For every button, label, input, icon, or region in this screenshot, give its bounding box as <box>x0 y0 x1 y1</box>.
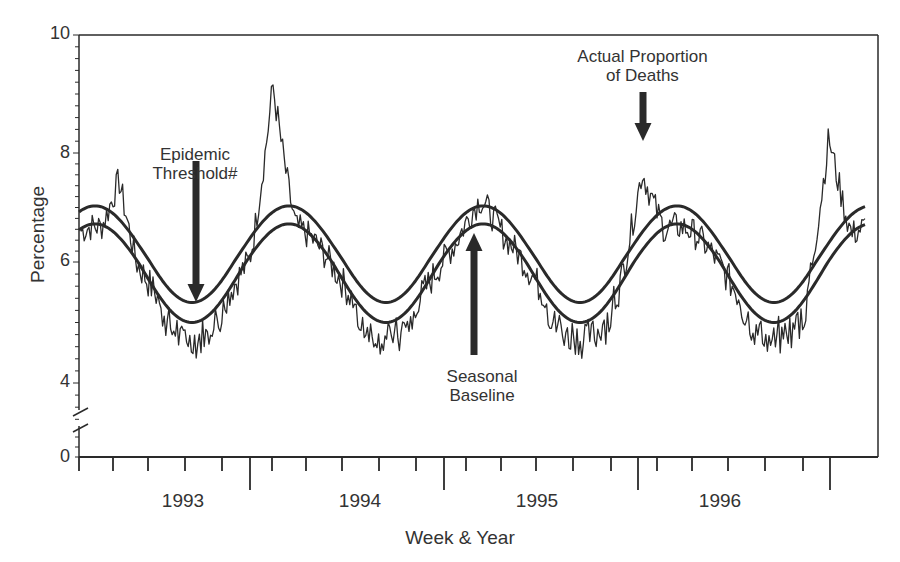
annotation-epidemic-threshold: Epidemic Threshold# <box>135 145 255 183</box>
annotation-line: Actual Proportion <box>560 47 725 66</box>
x-axis-label: Week & Year <box>380 528 540 547</box>
annotation-line: Epidemic <box>135 145 255 164</box>
y-tick-4: 4 <box>40 371 70 392</box>
annotation-line: of Deaths <box>560 66 725 85</box>
y-tick-8: 8 <box>40 142 70 163</box>
annotation-line: Threshold# <box>135 164 255 183</box>
chart-canvas <box>0 0 900 562</box>
annotation-actual-proportion: Actual Proportion of Deaths <box>560 47 725 85</box>
x-tick-1993: 1993 <box>143 490 223 512</box>
x-tick-1994: 1994 <box>320 490 400 512</box>
annotation-line: Baseline <box>422 386 542 405</box>
x-tick-1996: 1996 <box>680 490 760 512</box>
y-tick-10: 10 <box>40 23 70 44</box>
annotation-seasonal-baseline: Seasonal Baseline <box>422 367 542 405</box>
x-tick-1995: 1995 <box>497 490 577 512</box>
y-axis-label: Percentage <box>27 193 49 283</box>
y-tick-0: 0 <box>40 446 70 467</box>
annotation-line: Seasonal <box>422 367 542 386</box>
